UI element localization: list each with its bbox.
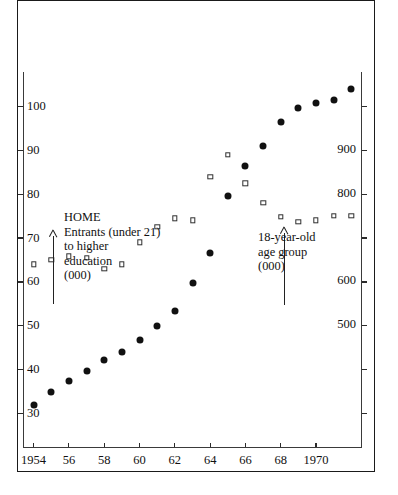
right-tick-1000 <box>362 106 367 107</box>
data-point-entrants-1971 <box>330 96 337 103</box>
x-tick-label-1954: 1954 <box>21 454 46 467</box>
right-annotation-text: 18-year-oldage group(000) <box>258 230 316 274</box>
x-tick-label-1960: 60 <box>133 454 146 467</box>
x-tick-1964 <box>210 443 211 447</box>
data-point-entrants-1960 <box>136 336 143 343</box>
data-point-age-group-1966 <box>243 180 248 185</box>
left-tick-60 <box>18 281 23 282</box>
right-tick-900 <box>362 150 367 151</box>
data-point-age-group-1962 <box>172 216 177 221</box>
left-tick-label-60: 60 <box>27 275 40 288</box>
x-tick-1960 <box>139 443 140 447</box>
annotation-line-5: (000) <box>64 268 160 283</box>
left-tick-70 <box>18 237 23 238</box>
data-point-entrants-1963 <box>189 279 196 286</box>
data-point-age-group-1972 <box>349 213 354 218</box>
right-axis-line <box>361 72 362 448</box>
left-annotation-arrow <box>50 230 58 304</box>
data-point-entrants-1968 <box>277 118 284 125</box>
annotation-line-1: 18-year-old <box>258 230 316 245</box>
left-tick-label-90: 90 <box>27 144 40 157</box>
right-tick-600 <box>362 281 367 282</box>
annotation-line-2: Entrants (under 21) <box>64 225 160 240</box>
left-tick-label-100: 100 <box>27 100 46 113</box>
right-tick-400 <box>362 369 367 370</box>
data-point-age-group-1965 <box>225 152 230 157</box>
x-tick-1958 <box>104 443 105 447</box>
left-tick-label-70: 70 <box>27 232 40 245</box>
chart-page: 30405060708090100 500600800900 195456586… <box>0 0 398 495</box>
x-tick-1970 <box>315 443 316 447</box>
data-point-entrants-1956 <box>65 377 72 384</box>
left-tick-40 <box>18 369 23 370</box>
annotation-line-4: education <box>64 254 160 269</box>
data-point-age-group-1963 <box>190 218 195 223</box>
data-point-entrants-1955 <box>48 388 55 395</box>
left-axis-line <box>23 72 24 448</box>
right-tick-800 <box>362 194 367 195</box>
right-tick-label-900: 900 <box>337 143 356 156</box>
data-point-age-group-1964 <box>207 174 212 179</box>
right-tick-label-800: 800 <box>337 187 356 200</box>
x-tick-1968 <box>280 443 281 447</box>
data-point-entrants-1958 <box>101 357 108 364</box>
left-tick-label-40: 40 <box>27 363 40 376</box>
annotation-line-3: (000) <box>258 259 316 274</box>
x-tick-label-1968: 68 <box>275 454 288 467</box>
data-point-entrants-1964 <box>207 250 214 257</box>
x-tick-label-1958: 58 <box>98 454 111 467</box>
data-point-entrants-1969 <box>295 105 302 112</box>
arrow-shaft <box>53 236 54 304</box>
data-point-entrants-1957 <box>83 367 90 374</box>
x-tick-1966 <box>245 443 246 447</box>
left-tick-100 <box>18 106 23 107</box>
left-tick-80 <box>18 194 23 195</box>
data-point-entrants-1970 <box>313 99 320 106</box>
data-point-age-group-1970 <box>313 218 318 223</box>
x-tick-1954 <box>33 443 34 447</box>
data-point-age-group-1967 <box>260 200 265 205</box>
x-tick-1956 <box>68 443 69 447</box>
left-tick-label-30: 30 <box>27 407 40 420</box>
right-tick-500 <box>362 325 367 326</box>
data-point-entrants-1962 <box>171 307 178 314</box>
bottom-axis-line <box>23 447 362 448</box>
left-tick-90 <box>18 150 23 151</box>
data-point-entrants-1954 <box>30 401 37 408</box>
right-tick-300 <box>362 413 367 414</box>
data-point-entrants-1972 <box>348 85 355 92</box>
x-tick-label-1966: 66 <box>239 454 252 467</box>
right-tick-700 <box>362 237 367 238</box>
annotation-line-2: age group <box>258 245 316 260</box>
annotation-line-3: to higher <box>64 239 160 254</box>
right-tick-label-600: 600 <box>337 274 356 287</box>
data-point-entrants-1965 <box>224 193 231 200</box>
data-point-entrants-1966 <box>242 162 249 169</box>
plot-area: 30405060708090100 500600800900 195456586… <box>23 72 362 448</box>
left-annotation-text: HOMEEntrants (under 21)to highereducatio… <box>64 210 160 283</box>
x-tick-label-1970: 1970 <box>304 454 329 467</box>
data-point-entrants-1967 <box>260 142 267 149</box>
left-tick-label-80: 80 <box>27 188 40 201</box>
data-point-entrants-1961 <box>154 322 161 329</box>
data-point-age-group-1954 <box>31 262 36 267</box>
left-tick-30 <box>18 413 23 414</box>
x-tick-label-1962: 62 <box>169 454 182 467</box>
x-tick-label-1956: 56 <box>63 454 76 467</box>
right-tick-label-500: 500 <box>337 318 356 331</box>
x-tick-label-1964: 64 <box>204 454 217 467</box>
data-point-age-group-1971 <box>331 213 336 218</box>
annotation-line-1: HOME <box>64 210 160 225</box>
left-tick-50 <box>18 325 23 326</box>
x-tick-1962 <box>174 443 175 447</box>
data-point-age-group-1968 <box>278 214 283 219</box>
data-point-entrants-1959 <box>118 349 125 356</box>
left-tick-label-50: 50 <box>27 319 40 332</box>
data-point-age-group-1969 <box>296 219 301 224</box>
